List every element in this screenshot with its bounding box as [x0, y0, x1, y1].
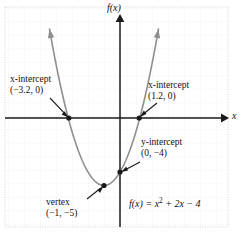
annotation-coords: (−1, −5)	[46, 208, 77, 219]
annotation-x-intercept-left: x-intercept (−3.2, 0)	[10, 74, 51, 95]
grid-lines	[5, 7, 228, 227]
annotation-title: y-intercept	[141, 137, 182, 148]
annotation-coords: (0, −4)	[141, 148, 182, 159]
x-axis-label: x	[232, 110, 236, 121]
coordinate-plane	[0, 0, 243, 234]
annotation-title: x-intercept	[10, 74, 51, 85]
point-y-intercept	[117, 169, 122, 174]
annotation-x-intercept-right: x-intercept (1.2, 0)	[148, 80, 189, 101]
annotation-coords: (−3.2, 0)	[10, 85, 51, 96]
equation-lhs: f(x) =	[129, 198, 155, 209]
annotation-vertex: vertex (−1, −5)	[46, 197, 77, 218]
annotation-coords: (1.2, 0)	[148, 91, 189, 102]
annotation-y-intercept: y-intercept (0, −4)	[141, 137, 182, 158]
annotation-equation: f(x) = x2 + 2x − 4	[129, 198, 201, 209]
equation-rest: + 2x − 4	[163, 198, 201, 209]
graph-figure: f(x) x x-intercept (−3.2, 0) x-intercept…	[0, 0, 243, 234]
y-axis-label: f(x)	[107, 2, 121, 13]
annotation-title: x-intercept	[148, 80, 189, 91]
annotation-title: vertex	[46, 197, 77, 208]
